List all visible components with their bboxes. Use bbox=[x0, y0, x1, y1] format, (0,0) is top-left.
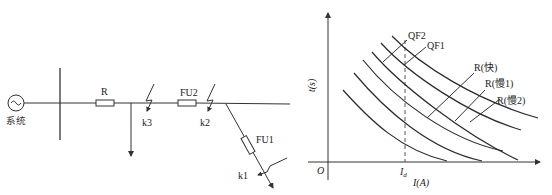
leader-qf2 bbox=[383, 40, 407, 62]
fault-k3-icon bbox=[146, 84, 154, 111]
label-r-fast: R(快) bbox=[474, 62, 497, 74]
fault-k1-icon bbox=[258, 158, 287, 175]
label-qf2: QF2 bbox=[408, 30, 426, 41]
x-axis-label: I(A) bbox=[412, 177, 430, 189]
label-r-slow1: R(慢1) bbox=[485, 78, 513, 90]
leader-r-slow1 bbox=[455, 90, 485, 121]
fuse-fu1-box bbox=[241, 136, 255, 155]
time-current-chart: t(s) O I(A) Id QF2 QF1 R(快) R(慢1) R(慢2) bbox=[306, 13, 540, 189]
y-axis-label: t(s) bbox=[306, 78, 318, 92]
origin-label: O bbox=[317, 165, 324, 176]
fault-k3-label: k3 bbox=[142, 117, 152, 128]
protection-coordination-diagram: 系统 R k3 FU2 k2 FU1 bbox=[0, 0, 552, 195]
fault-k2-label: k2 bbox=[200, 117, 210, 128]
feeder-line-fu2-end bbox=[196, 103, 290, 104]
fuse-fu1-label: FU1 bbox=[256, 134, 274, 145]
label-qf1: QF1 bbox=[427, 40, 445, 51]
source-label: 系统 bbox=[6, 115, 26, 126]
label-r-slow2: R(慢2) bbox=[497, 95, 525, 107]
fault-k2-icon bbox=[207, 84, 215, 111]
fuse-fu2-label: FU2 bbox=[180, 87, 198, 98]
id-marker-label: Id bbox=[399, 166, 407, 179]
relay-r-label: R bbox=[101, 86, 108, 97]
relay-r-box bbox=[96, 100, 114, 106]
fuse-fu2-box bbox=[178, 100, 196, 106]
fault-k1-label: k1 bbox=[238, 170, 248, 181]
ac-source-icon bbox=[8, 95, 24, 111]
circuit-diagram: 系统 R k3 FU2 k2 FU1 bbox=[6, 68, 290, 188]
curve-1 bbox=[343, 90, 447, 161]
curve-2 bbox=[354, 73, 482, 161]
